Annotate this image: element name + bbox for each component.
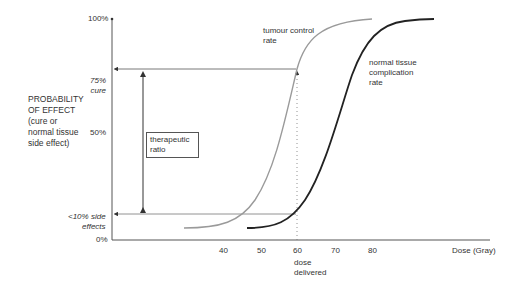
- x-tick-40: 40: [219, 246, 228, 256]
- tumour-line: tumour control: [263, 26, 314, 36]
- x-tick-80: 80: [368, 246, 377, 256]
- y10-line: <10% side: [68, 212, 106, 222]
- dose-line: dose: [294, 258, 326, 268]
- tumour-control-label: tumour control rate: [263, 26, 314, 46]
- x-tick-70: 70: [331, 246, 340, 256]
- y-tick-75-cure: 75% cure: [90, 76, 106, 96]
- ratio-line: ratio: [150, 145, 195, 155]
- y75-line: 75%: [90, 76, 106, 86]
- normal-line: normal tissue: [369, 58, 417, 68]
- y-tick-10-side-effects: <10% side effects: [68, 212, 106, 232]
- y-tick-100: 100%: [88, 14, 108, 24]
- y-title-line: OF EFFECT: [28, 105, 84, 116]
- y-title-line: side effect): [28, 138, 84, 149]
- tumour-line: rate: [263, 36, 314, 46]
- y-tick-50: 50%: [90, 128, 106, 138]
- normal-line: complication: [369, 68, 417, 78]
- tumour-control-curve: [184, 19, 372, 228]
- normal-line: rate: [369, 78, 417, 88]
- y75-line: cure: [90, 86, 106, 96]
- y-axis-title: PROBABILITY OF EFFECT (cure or normal ti…: [28, 94, 84, 149]
- normal-tissue-curve: [247, 19, 434, 228]
- y-title-line: PROBABILITY: [28, 94, 84, 105]
- ratio-line: therapeutic: [150, 135, 195, 145]
- x-tick-60: 60: [293, 246, 302, 256]
- y-tick-0: 0%: [96, 235, 108, 245]
- x-tick-50: 50: [257, 246, 266, 256]
- therapeutic-ratio-box: therapeutic ratio: [146, 132, 199, 158]
- y10-line: effects: [68, 222, 106, 232]
- y-title-line: (cure or: [28, 116, 84, 127]
- normal-tissue-label: normal tissue complication rate: [369, 58, 417, 88]
- dose-line: delivered: [294, 268, 326, 278]
- x-axis-title: Dose (Gray): [452, 246, 496, 256]
- dose-delivered-label: dose delivered: [294, 258, 326, 278]
- y-title-line: normal tissue: [28, 127, 84, 138]
